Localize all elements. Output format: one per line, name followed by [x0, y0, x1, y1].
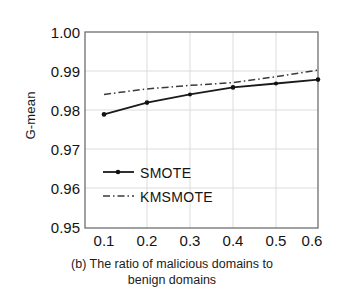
figure-caption: (b) The ratio of malicious domains to be… [36, 256, 308, 288]
legend-sample-smote [103, 170, 134, 175]
caption-line-2: benign domains [128, 273, 216, 287]
chart-figure: G-mean 1.00 0.99 0.98 0.97 0.96 0.95 0.1… [0, 0, 342, 301]
legend-item-kmsmote: KMSMOTE [140, 190, 213, 204]
grid-horizontal [85, 71, 318, 188]
series-line-smote [104, 80, 318, 115]
legend-item-smote: SMOTE [140, 166, 191, 180]
caption-line-1: (b) The ratio of malicious domains to [71, 257, 273, 271]
